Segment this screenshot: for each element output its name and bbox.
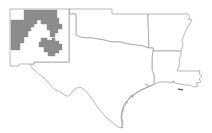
- region-map: [0, 0, 212, 133]
- louisiana-coast-detail: [178, 89, 183, 90]
- state-arkansas[interactable]: [148, 14, 192, 51]
- state-louisiana[interactable]: [152, 51, 202, 87]
